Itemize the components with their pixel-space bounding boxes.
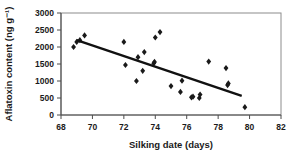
x-tick-label: 82: [276, 122, 286, 132]
data-point-marker: [123, 62, 128, 68]
data-point-marker: [158, 29, 163, 35]
x-tick-label: 70: [88, 122, 98, 132]
y-tick-label: 0: [49, 110, 54, 120]
data-point-marker: [153, 34, 158, 40]
data-point-marker: [178, 89, 183, 95]
data-point-marker: [121, 39, 126, 45]
x-tick-label: 80: [245, 122, 255, 132]
data-point-marker: [180, 78, 185, 84]
y-tick-label: 500: [40, 93, 54, 103]
y-tick-label: 1000: [35, 76, 54, 86]
plot-frame: [61, 13, 281, 115]
x-axis: 6870727476788082 Silking date (days): [56, 115, 286, 150]
data-point-marker: [134, 78, 139, 84]
data-point-marker: [71, 44, 76, 50]
y-tick-label: 3000: [35, 8, 54, 18]
data-point-marker: [140, 68, 145, 74]
x-tick-label: 76: [182, 122, 192, 132]
y-tick-label: 2000: [35, 42, 54, 52]
y-tick-label: 2500: [35, 25, 54, 35]
y-axis-tick-marks: [57, 13, 61, 115]
aflatoxin-vs-silking-date-scatter-plot: 050010001500200025003000 Aflatoxin conte…: [0, 0, 302, 154]
data-point-marker: [169, 83, 174, 89]
y-axis-title: Aflatoxin content (ng g⁻¹): [3, 7, 14, 122]
x-tick-label: 68: [56, 122, 66, 132]
data-point-marker: [82, 32, 87, 38]
y-axis: 050010001500200025003000 Aflatoxin conte…: [3, 7, 61, 122]
x-axis-tick-marks: [61, 115, 281, 119]
data-point-marker: [142, 49, 147, 55]
data-point-marker: [224, 65, 229, 71]
x-tick-label: 72: [119, 122, 129, 132]
trend-line-segment: [77, 40, 242, 96]
plot-area-border: [61, 13, 281, 115]
chart-figure: 050010001500200025003000 Aflatoxin conte…: [0, 0, 302, 154]
x-axis-title: Silking date (days): [129, 139, 213, 150]
y-axis-tick-labels: 050010001500200025003000: [35, 8, 54, 120]
data-point-marker: [206, 59, 211, 65]
x-tick-label: 74: [151, 122, 161, 132]
scatter-data-points: [71, 29, 247, 110]
x-axis-tick-labels: 6870727476788082: [56, 122, 286, 132]
x-tick-label: 78: [213, 122, 223, 132]
regression-trend-line: [77, 40, 242, 96]
data-point-marker: [242, 104, 247, 110]
y-tick-label: 1500: [35, 59, 54, 69]
